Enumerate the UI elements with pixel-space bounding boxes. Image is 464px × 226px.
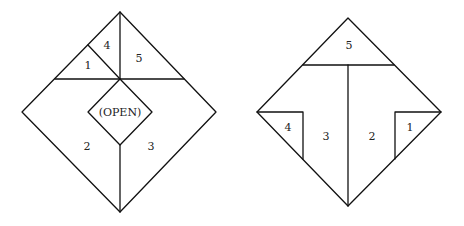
left-label-open: (OPEN) bbox=[99, 106, 142, 119]
left-label-4: 4 bbox=[104, 39, 111, 52]
right-label-1: 1 bbox=[407, 121, 414, 134]
right-label-4: 4 bbox=[285, 121, 292, 134]
right-label-3: 3 bbox=[323, 130, 330, 143]
right-label-2: 2 bbox=[369, 130, 376, 143]
left-label-5: 5 bbox=[136, 52, 143, 65]
left-label-3: 3 bbox=[148, 140, 155, 153]
left-label-1: 1 bbox=[85, 59, 92, 72]
left-label-2: 2 bbox=[84, 140, 91, 153]
right-label-5: 5 bbox=[346, 39, 353, 52]
right-diamond-figure: 5 4 3 2 1 bbox=[257, 18, 441, 206]
diagram-canvas: 1 2 3 4 5 (OPEN) 5 4 3 2 1 bbox=[0, 0, 464, 226]
left-diamond-figure: 1 2 3 4 5 (OPEN) bbox=[22, 12, 216, 212]
